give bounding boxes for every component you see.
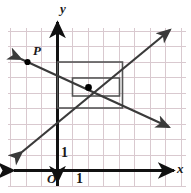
x-axis-label: x: [177, 162, 184, 175]
lines: [21, 30, 170, 152]
y-axis-label: y: [60, 2, 66, 15]
origin-label: O: [47, 172, 56, 185]
line-positive-slope: [22, 30, 170, 152]
x-unit-label: 1: [76, 172, 83, 186]
center-intersection-dot: [85, 84, 92, 91]
y-unit-label: 1: [61, 146, 68, 160]
point-p-label: P: [33, 44, 41, 57]
figure-canvas: [0, 0, 191, 193]
coordinate-plane-figure: P y x O 1 1: [0, 0, 191, 193]
point-p-dot: [24, 59, 30, 65]
